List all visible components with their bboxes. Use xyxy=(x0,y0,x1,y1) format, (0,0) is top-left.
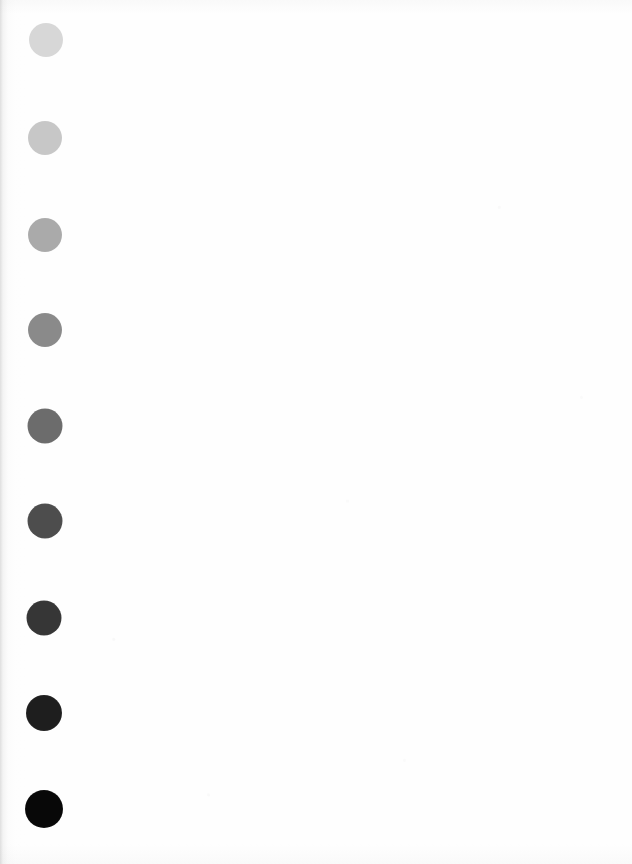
density-dot-3 xyxy=(28,218,62,252)
density-dot-2 xyxy=(28,121,62,155)
density-dot-7 xyxy=(27,601,62,636)
scanned-page xyxy=(0,0,632,864)
density-dot-5 xyxy=(28,409,63,444)
density-dot-8 xyxy=(26,695,62,731)
density-dot-9 xyxy=(25,790,63,828)
density-dot-4 xyxy=(28,313,62,347)
density-dot-6 xyxy=(28,504,63,539)
grayscale-step-wedge xyxy=(0,0,110,864)
density-dot-1 xyxy=(29,23,63,57)
